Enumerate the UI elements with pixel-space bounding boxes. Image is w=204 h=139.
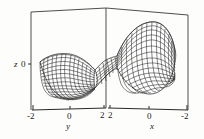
y-axis-label: y bbox=[66, 122, 70, 131]
wireframe-surface bbox=[40, 22, 176, 100]
x-tick-2: 2 bbox=[108, 111, 113, 120]
z-tick-0: 0 bbox=[21, 60, 26, 69]
x-tick-0: 0 bbox=[147, 112, 152, 121]
surface-lobe-right bbox=[117, 22, 176, 94]
y-tick-0: 0 bbox=[67, 112, 72, 121]
y-tick-2: 2 bbox=[100, 111, 105, 120]
x-tick-minus2: -2 bbox=[181, 112, 189, 121]
y-tick-minus2: -2 bbox=[27, 112, 35, 121]
surface-plot-figure: z 0 -2 0 2 y 2 0 -2 x bbox=[0, 0, 204, 139]
surface-lobe-left bbox=[40, 53, 97, 100]
z-axis-label: z bbox=[14, 60, 18, 69]
x-axis-label: x bbox=[150, 122, 154, 131]
